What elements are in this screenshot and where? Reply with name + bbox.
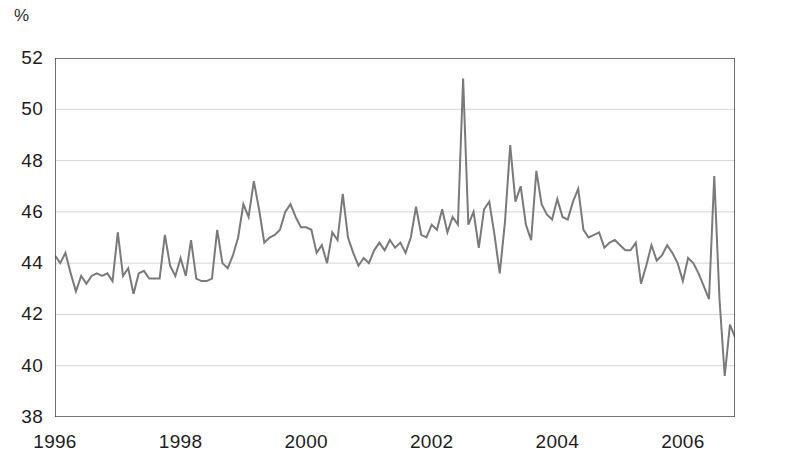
y-axis-tick-label: 50 (0, 98, 43, 120)
y-axis-tick-label: 38 (0, 406, 43, 428)
x-axis-tick-label: 2004 (512, 431, 602, 453)
y-axis-tick-label: 40 (0, 355, 43, 377)
x-axis-tick-label: 2006 (638, 431, 728, 453)
x-axis-tick-label: 2000 (261, 431, 351, 453)
y-axis-unit-label: % (14, 6, 30, 26)
axis-frame (55, 58, 735, 417)
y-axis-tick-label: 48 (0, 150, 43, 172)
y-axis-tick-label: 44 (0, 252, 43, 274)
y-axis-tick-label: 52 (0, 47, 43, 69)
x-axis-tick-label: 2002 (387, 431, 477, 453)
x-axis-tick-label: 1996 (10, 431, 100, 453)
plot-area (55, 58, 735, 417)
data-series-line (55, 79, 735, 376)
x-axis-tick-label: 1998 (136, 431, 226, 453)
chart-container: % 3840424446485052 199619982000200220042… (0, 0, 785, 465)
y-axis-tick-label: 42 (0, 303, 43, 325)
series-polyline (55, 79, 735, 376)
y-axis-tick-label: 46 (0, 201, 43, 223)
gridlines (55, 58, 735, 366)
chart-svg (55, 58, 735, 417)
